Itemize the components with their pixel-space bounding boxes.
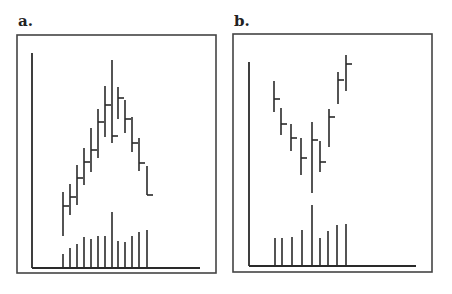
charts-canvas (0, 0, 452, 294)
panel-a-frame (17, 35, 216, 273)
panel-b-frame (233, 34, 432, 272)
